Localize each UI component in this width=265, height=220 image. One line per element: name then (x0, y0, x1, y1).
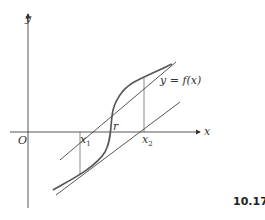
figure-number: 10.17 (233, 195, 265, 208)
lower-tangent-line (56, 102, 180, 195)
x2-label: x2 (142, 133, 153, 148)
root-label: r (113, 120, 119, 133)
upper-tangent-line (60, 62, 176, 160)
curve-label: y = f(x) (159, 74, 201, 87)
diagram-canvas: y x O y = f(x) x1 x2 r 10.17 (0, 0, 265, 220)
origin-label: O (18, 134, 27, 147)
y-axis-label: y (24, 12, 32, 25)
x-axis-label: x (204, 125, 211, 138)
